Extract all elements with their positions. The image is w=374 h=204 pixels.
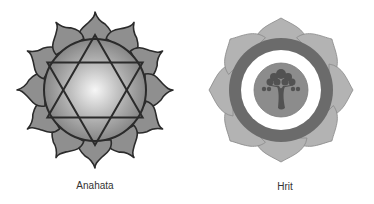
anahata-symbol [17, 12, 173, 168]
anahata-circle [44, 39, 146, 141]
label-hrit: Hrit [245, 181, 325, 192]
chakra-diagram [0, 0, 374, 204]
label-anahata: Anahata [55, 180, 135, 191]
hrit-symbol [209, 18, 353, 162]
